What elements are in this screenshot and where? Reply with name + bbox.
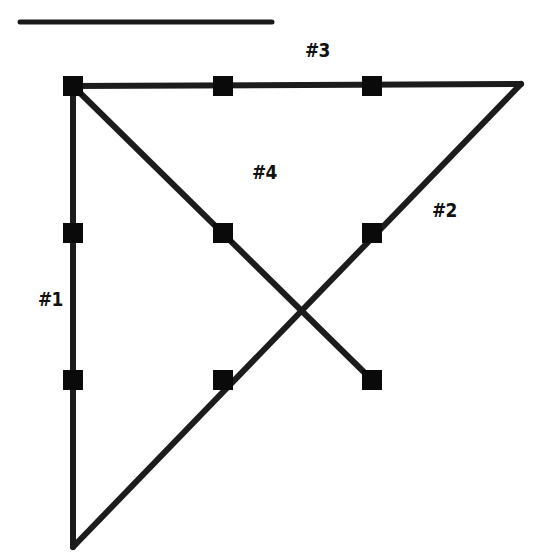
nine-dot-diagram: #1 #2 #3 #4 <box>0 0 559 559</box>
dot-r1c2 <box>213 76 233 96</box>
diagram-canvas <box>0 0 559 559</box>
dot-r2c2 <box>213 223 233 243</box>
dot-r2c3 <box>362 223 382 243</box>
line-label-2: #2 <box>432 198 456 222</box>
line-label-4: #4 <box>252 160 276 184</box>
dot-r3c1 <box>63 370 83 390</box>
line-label-3: #3 <box>305 38 329 62</box>
line-label-1: #1 <box>38 287 62 311</box>
line-3 <box>73 84 521 86</box>
dot-r1c1 <box>63 76 83 96</box>
dot-r1c3 <box>362 76 382 96</box>
dot-r3c2 <box>213 370 233 390</box>
dot-r3c3 <box>362 370 382 390</box>
connecting-lines <box>73 84 521 547</box>
dot-r2c1 <box>63 223 83 243</box>
